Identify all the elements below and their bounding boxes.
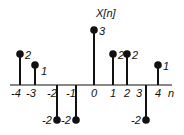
value-label: -2	[131, 114, 141, 126]
stem-marker	[53, 116, 61, 124]
x-tick-label: 2	[123, 87, 130, 99]
value-label: -2	[61, 114, 71, 126]
value-label: -2	[42, 114, 52, 126]
x-tick-label: 4	[155, 87, 161, 99]
x-axis-label: n	[168, 87, 174, 99]
x-tick-label: -4	[11, 87, 21, 99]
stem-chart-svg: X[n] n 2-41-3-2-2-2-1302122-2314	[0, 0, 184, 135]
chart-title: X[n]	[95, 7, 117, 19]
x-tick-label: 1	[110, 87, 116, 99]
stem-marker	[123, 50, 131, 58]
x-tick-label: -2	[47, 87, 57, 99]
x-tick-label: 0	[91, 87, 98, 99]
value-label: 2	[131, 49, 138, 61]
stem-marker	[90, 26, 98, 34]
x-tick-label: -3	[26, 87, 37, 99]
value-label: 2	[117, 49, 124, 61]
value-label: 2	[24, 49, 31, 61]
stems-group: 2-41-3-2-2-2-1302122-2314	[11, 25, 169, 126]
stem-marker	[31, 61, 39, 69]
value-label: 1	[163, 60, 169, 72]
stem-marker	[109, 50, 117, 58]
value-label: 1	[41, 65, 47, 77]
x-tick-label: 3	[136, 87, 143, 99]
x-tick-label: -1	[66, 87, 76, 99]
value-label: 3	[99, 25, 106, 37]
stem-plot: X[n] n 2-41-3-2-2-2-1302122-2314	[0, 0, 184, 135]
stem-marker	[16, 50, 24, 58]
stem-marker	[142, 116, 150, 124]
stem-marker	[154, 61, 162, 69]
stem-marker	[72, 116, 80, 124]
